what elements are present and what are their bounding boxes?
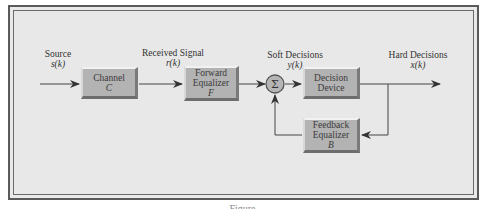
figure-caption: Figure [0, 202, 485, 209]
signal-flow-lines: Σ [0, 0, 485, 209]
edge-feedback-sum [275, 95, 302, 135]
label-source: Source s(k) [40, 49, 76, 69]
block-feedback-equalizer: Feedback Equalizer B [303, 118, 360, 153]
block-forward-equalizer: Forward Equalizer F [184, 66, 239, 101]
edge-decision-feedback [362, 84, 388, 135]
block-decision-device: Decision Device [303, 67, 360, 99]
label-received-signal: Received Signal r(k) [133, 48, 213, 68]
label-hard-decisions: Hard Decisions x(k) [386, 50, 450, 70]
block-channel: Channel C [81, 67, 138, 99]
svg-text:Σ: Σ [271, 78, 279, 91]
summing-junction: Σ [266, 75, 284, 93]
